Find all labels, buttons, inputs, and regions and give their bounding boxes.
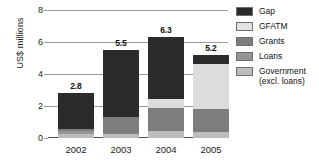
segment-government-2004 [148,131,184,138]
legend-swatch-gfatm-icon [236,22,253,31]
y-tick-label-6: 6 [38,37,43,47]
segment-grants-2005 [193,109,229,132]
tickmark-0 [44,138,48,139]
bar-2002[interactable]: 2.8 2002 [58,93,94,138]
legend-label-government: Government (excl. loans) [259,66,306,86]
segment-gap-2005 [193,55,229,65]
tickmark-4 [44,74,48,75]
bar-2004[interactable]: 6.3 2004 [148,37,184,138]
segment-government-2005 [193,132,229,138]
segment-gap-2004 [148,37,184,99]
y-axis-title: US$ millions [15,0,25,93]
legend-label-gfatm: GFATM [259,21,288,31]
plot-area: 8 6 4 2 0 2.8 2002 5.5 2003 [48,10,228,138]
legend-swatch-gap-icon [236,7,253,16]
legend-label-gap: Gap [259,6,275,16]
legend-swatch-loans-icon [236,52,253,61]
stacked-bar-chart: US$ millions 8 6 4 2 0 2.8 2002 [0,0,319,167]
legend-item-grants[interactable]: Grants [236,36,319,46]
tickmark-6 [44,42,48,43]
x-tick-label-2002: 2002 [58,144,94,155]
bar-total-label-2003: 5.5 [103,38,139,48]
legend-label-loans: Loans [259,51,282,61]
segment-gap-2003 [103,50,139,117]
bar-2005[interactable]: 5.2 2005 [193,55,229,138]
legend-item-gap[interactable]: Gap [236,6,319,16]
segment-gap-2002 [58,93,94,129]
legend-swatch-government-icon [236,67,253,76]
segment-government-2002 [58,134,94,138]
legend-swatch-grants-icon [236,37,253,46]
bar-total-label-2005: 5.2 [193,43,229,53]
gridline-8 [48,10,228,11]
y-tick-label-8: 8 [38,5,43,15]
legend-label-grants: Grants [259,36,285,46]
tickmark-8 [44,10,48,11]
bar-2003[interactable]: 5.5 2003 [103,50,139,138]
segment-gfatm-2004 [148,99,184,108]
x-tick-label-2004: 2004 [148,144,184,155]
segment-gfatm-2005 [193,64,229,109]
tickmark-2 [44,106,48,107]
y-tick-label-2: 2 [38,101,43,111]
y-tick-label-4: 4 [38,69,43,79]
y-tick-label-0: 0 [38,133,43,143]
x-tick-label-2003: 2003 [103,144,139,155]
legend-item-gfatm[interactable]: GFATM [236,21,319,31]
segment-government-2003 [103,134,139,138]
segment-grants-2003 [103,117,139,134]
legend-item-loans[interactable]: Loans [236,51,319,61]
bar-total-label-2002: 2.8 [58,81,94,91]
x-tick-label-2005: 2005 [193,144,229,155]
bar-total-label-2004: 6.3 [148,25,184,35]
legend-item-government[interactable]: Government (excl. loans) [236,66,319,86]
chart-legend: Gap GFATM Grants Loans Government (excl.… [236,6,319,91]
segment-grants-2004 [148,108,184,131]
